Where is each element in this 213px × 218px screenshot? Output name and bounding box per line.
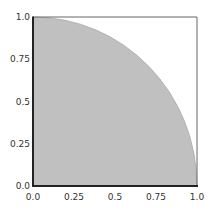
x-tick-label: 1.0 — [190, 192, 205, 202]
y-tick-label: 0.75 — [10, 54, 30, 64]
y-tick-label: 0.0 — [16, 181, 31, 191]
quarter-circle-chart: 0.00.250.50.751.0 0.00.250.50.751.0 — [0, 0, 213, 218]
y-axis-tick-labels: 0.00.250.50.751.0 — [10, 12, 30, 191]
plot-area — [33, 17, 197, 186]
y-tick-label: 0.5 — [16, 97, 30, 107]
y-tick-label: 1.0 — [16, 12, 31, 22]
x-tick-label: 0.5 — [108, 192, 122, 202]
x-tick-label: 0.0 — [26, 192, 41, 202]
y-tick-label: 0.25 — [10, 139, 30, 149]
x-tick-label: 0.25 — [64, 192, 84, 202]
x-tick-label: 0.75 — [146, 192, 166, 202]
x-axis-tick-labels: 0.00.250.50.751.0 — [26, 192, 205, 202]
quarter-circle-area — [33, 17, 197, 186]
